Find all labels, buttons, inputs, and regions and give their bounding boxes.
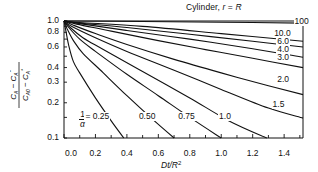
curve-label: 100 <box>294 17 310 26</box>
curve-label: 0.75 <box>177 112 196 121</box>
y-tick-label: 0.1 <box>47 133 59 142</box>
x-tick-label: 0.8 <box>178 148 202 158</box>
x-tick-label: 1.2 <box>241 148 265 158</box>
curve-label: = 0.25 <box>84 112 110 121</box>
svg-text:CA0 − CA*: CA0 − CA* <box>20 68 31 101</box>
curve-4-0 <box>64 21 303 57</box>
curve-label: 3.0 <box>276 53 290 62</box>
svg-text:CA − CA*: CA − CA* <box>10 69 19 99</box>
x-tick-label: 0.6 <box>146 148 170 158</box>
y-tick-label: 1.0 <box>47 16 59 25</box>
curve-label: 2.0 <box>276 75 290 84</box>
curve-2-0 <box>64 21 303 95</box>
title-var2: R <box>235 2 241 12</box>
x-tick-label: 1.0 <box>209 148 233 158</box>
curve-label: 1.5 <box>272 100 286 109</box>
x-tick-label: 0.4 <box>115 148 139 158</box>
x-axis-label: Dt/R2 <box>161 160 181 170</box>
x-axis-label-sup: 2 <box>178 160 181 166</box>
title-text: Cylinder, <box>186 2 222 12</box>
y-tick-label: 0.8 <box>47 27 59 36</box>
y-tick-label: 0.6 <box>47 42 59 51</box>
chart-title: Cylinder, r = R <box>186 2 242 12</box>
y-tick-label: 0.3 <box>47 77 59 86</box>
y-tick-label: 0.4 <box>47 63 59 72</box>
x-tick-label: 0.0 <box>59 148 83 158</box>
curve-6-0 <box>64 21 303 47</box>
curve-3-0 <box>64 21 303 68</box>
y-tick-label: 0.2 <box>47 98 59 107</box>
x-tick-label: 1.4 <box>272 148 296 158</box>
x-tick-label: 0.2 <box>83 148 107 158</box>
x-axis-label-main: Dt/R <box>161 160 178 170</box>
y-axis-label: CA − CA* CA0 − CA* <box>10 57 36 113</box>
curve-label: 1.0 <box>218 112 232 121</box>
curve-label: 0.50 <box>138 112 157 121</box>
title-eq: = <box>225 2 235 12</box>
